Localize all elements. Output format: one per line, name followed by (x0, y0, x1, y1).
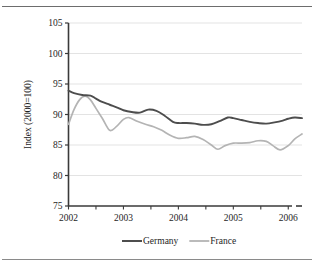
x-axis (69, 206, 303, 210)
series-lines (69, 91, 303, 150)
x-tick-label: 2004 (169, 213, 188, 223)
y-tick-label: 105 (48, 18, 63, 28)
x-tick-label: 2006 (279, 213, 298, 223)
x-tick-label: 2003 (114, 213, 133, 223)
gridlines-group (69, 23, 303, 176)
figure-container: 7580859095100105 20022003200420052006 In… (0, 0, 314, 268)
y-axis-title-text: Index (2000=100) (23, 80, 34, 149)
y-tick-labels: 7580859095100105 (48, 18, 63, 211)
y-axis (65, 23, 69, 206)
y-tick-label: 90 (53, 110, 63, 120)
y-tick-label: 100 (48, 49, 63, 59)
line-chart: 7580859095100105 20022003200420052006 In… (0, 0, 314, 268)
legend-label-germany: Germany (143, 236, 179, 246)
y-tick-label: 75 (53, 201, 63, 211)
y-axis-title: Index (2000=100) (23, 80, 34, 149)
y-tick-label: 95 (53, 79, 63, 89)
legend-label-france: France (210, 236, 236, 246)
x-tick-label: 2002 (59, 213, 78, 223)
x-tick-labels: 20022003200420052006 (59, 213, 298, 223)
chart-legend: GermanyFrance (122, 236, 236, 246)
x-tick-label: 2005 (224, 213, 243, 223)
y-tick-label: 80 (53, 171, 63, 181)
y-tick-label: 85 (53, 140, 63, 150)
